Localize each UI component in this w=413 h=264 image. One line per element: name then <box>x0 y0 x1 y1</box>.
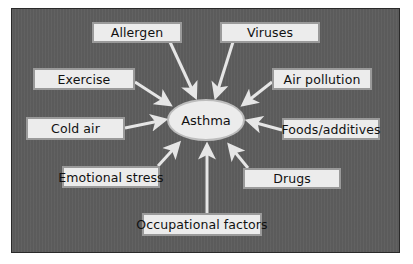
trigger-viruses: Viruses <box>220 22 320 43</box>
arrow-cold-air <box>125 120 164 128</box>
trigger-drugs: Drugs <box>243 168 341 189</box>
trigger-emotional-stress: Emotional stress <box>62 166 160 188</box>
trigger-foods-additives: Foods/additives <box>282 118 380 140</box>
trigger-label: Drugs <box>273 171 311 186</box>
trigger-label: Allergen <box>111 25 163 40</box>
trigger-label: Exercise <box>58 72 111 87</box>
asthma-node: Asthma <box>167 99 245 141</box>
trigger-label: Emotional stress <box>58 170 163 185</box>
trigger-allergen: Allergen <box>92 22 182 43</box>
trigger-exercise: Exercise <box>33 68 135 90</box>
trigger-cold-air: Cold air <box>26 117 125 140</box>
arrow-foods-additives <box>249 121 282 130</box>
trigger-label: Occupational factors <box>136 217 267 232</box>
arrow-allergen <box>170 42 195 96</box>
trigger-air-pollution: Air pollution <box>272 68 372 90</box>
trigger-label: Cold air <box>51 121 100 136</box>
trigger-label: Foods/additives <box>281 122 380 137</box>
arrow-drugs <box>230 146 248 168</box>
asthma-label: Asthma <box>181 113 231 128</box>
arrow-emotional-stress <box>158 144 178 166</box>
arrow-viruses <box>216 42 233 96</box>
trigger-label: Viruses <box>247 25 293 40</box>
trigger-occupational-factors: Occupational factors <box>142 213 262 236</box>
trigger-label: Air pollution <box>284 72 361 87</box>
arrow-exercise <box>135 82 169 104</box>
arrow-air-pollution <box>244 82 272 104</box>
